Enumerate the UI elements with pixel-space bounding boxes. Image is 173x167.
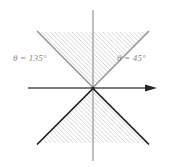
figure-canvas (0, 0, 173, 167)
origin-point (91, 86, 94, 89)
theta-45-label: θ = 45° (117, 54, 146, 63)
theta-135-label: θ = 135° (13, 54, 47, 63)
theta-135-text: θ = 135° (13, 53, 47, 63)
theta-45-text: θ = 45° (117, 53, 146, 63)
angular-region-figure: θ = 135° θ = 45° (0, 0, 173, 167)
